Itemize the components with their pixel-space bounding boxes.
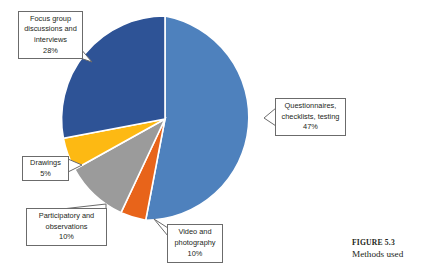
callout-questionnaires[interactable]: Questionnaires, checklists, testing 47%	[275, 98, 346, 136]
leader-video	[154, 219, 168, 236]
callout-focus-group-line1: Focus group	[30, 14, 71, 25]
callout-questionnaires-line2: checklists, testing	[282, 112, 340, 123]
callout-focus-group[interactable]: Focus group discussions and interviews 2…	[18, 11, 83, 59]
callout-focus-group-line2: discussions and	[24, 24, 77, 35]
callout-questionnaires-value: 47%	[303, 122, 318, 133]
callout-video[interactable]: Video and photography 10%	[167, 224, 223, 263]
figure-number: FIGURE 5.3	[352, 238, 422, 248]
callout-participatory-line2: observations	[46, 222, 88, 233]
callout-participatory-value: 10%	[59, 232, 74, 243]
callout-video-line2: photography	[174, 238, 215, 249]
callout-video-line1: Video and	[178, 227, 211, 238]
callout-drawings-value: 5%	[40, 169, 51, 180]
figure-title: Methods used	[352, 248, 422, 260]
callout-questionnaires-line1: Questionnaires,	[285, 101, 337, 112]
figure-container: Focus group discussions and interviews 2…	[0, 0, 422, 276]
callout-focus-group-line3: interviews	[34, 35, 67, 46]
callout-video-value: 10%	[188, 249, 203, 260]
figure-caption: FIGURE 5.3 Methods used	[352, 238, 422, 261]
callout-drawings[interactable]: Drawings 5%	[22, 156, 69, 181]
callout-drawings-line1: Drawings	[30, 158, 61, 169]
callout-focus-group-value: 28%	[43, 46, 58, 57]
callout-participatory[interactable]: Participatory and observations 10%	[26, 208, 107, 246]
pie-slices	[62, 16, 249, 220]
callout-participatory-line1: Participatory and	[39, 211, 94, 222]
